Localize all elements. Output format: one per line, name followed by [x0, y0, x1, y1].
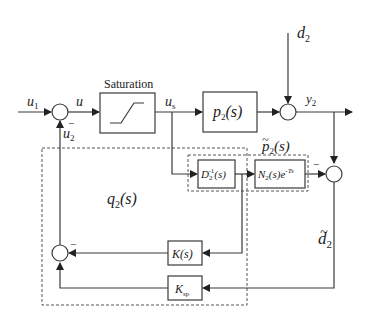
d2-tilde-label: d2 [318, 229, 332, 250]
model-label: p2(s) [261, 138, 290, 156]
summing-junction-feedback [52, 245, 68, 261]
us-label: us [165, 94, 176, 111]
summing-junction-input [52, 104, 68, 120]
sum4-minus-sign: − [70, 238, 76, 250]
ksp-output-line [60, 263, 168, 288]
q2-label: q2(s) [107, 190, 137, 210]
saturation-label: Saturation [104, 77, 153, 91]
plant-label: p2(s) [212, 103, 242, 122]
us-branch-line [172, 112, 197, 174]
d2-label: d2 [297, 24, 310, 44]
block-diagram: u1 u − u2 Saturation us p2(s) d2 y2 ~ p2… [0, 0, 367, 321]
sum3-minus-sign: − [313, 158, 319, 170]
u1-label: u1 [27, 94, 39, 111]
d2-tilde-feedback-line [203, 182, 334, 288]
summing-junction-model-error [326, 166, 342, 182]
y2-label: y2 [304, 91, 316, 108]
k-label: K(s) [171, 247, 193, 261]
summing-junction-disturbance [280, 104, 296, 120]
u-label: u [76, 94, 83, 109]
